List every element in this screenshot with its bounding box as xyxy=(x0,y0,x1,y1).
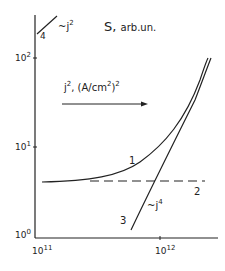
chart-canvas xyxy=(0,0,225,271)
y-tick-100: 102 xyxy=(15,54,31,63)
chart-title: S, arb.un. xyxy=(104,20,156,33)
curve-1 xyxy=(42,58,208,182)
curve-label-1: 1 xyxy=(129,156,135,166)
y-tick-1: 100 xyxy=(15,231,31,240)
curve-label-3: 3 xyxy=(120,216,126,226)
annotation-j4: ~j4 xyxy=(147,201,163,211)
x-tick-1e11: 1011 xyxy=(32,247,52,256)
y-tick-10: 101 xyxy=(15,143,31,152)
curve-label-2: 2 xyxy=(194,187,200,197)
annotation-j2: ~j2 xyxy=(58,22,74,32)
x-axis-label: j2, (A/cm2)2 xyxy=(64,83,120,93)
x-tick-1e12: 1012 xyxy=(155,247,175,256)
curve-label-4: 4 xyxy=(40,32,46,41)
